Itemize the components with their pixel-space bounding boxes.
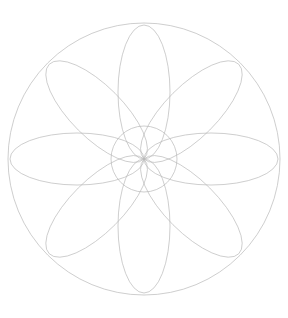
figure-canvas: Rosette Flower Outline Line drawing of a…: [0, 0, 288, 318]
petal-s: [118, 159, 170, 293]
petal-w: [10, 133, 144, 185]
petal-e: [144, 133, 278, 185]
rosette-figure: [0, 0, 288, 318]
petal-n: [118, 25, 170, 159]
petal-group: [10, 25, 278, 293]
